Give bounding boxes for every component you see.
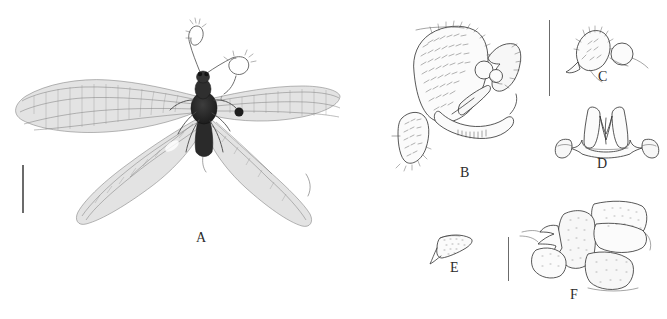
panel-c-ectoproct: C [560, 22, 660, 84]
hindwing-right [206, 120, 312, 226]
scale-bar-a [22, 165, 24, 213]
panel-f-abdomen-apex: F [518, 198, 654, 298]
panel-label-f: F [570, 288, 578, 302]
figure-plate: A [0, 0, 667, 319]
panel-c-drawing [560, 22, 660, 84]
panel-f-drawing [518, 198, 654, 298]
panel-e-gonapophysis: E [424, 226, 494, 274]
panel-b-terminalia: B [392, 14, 538, 174]
panel-d-gonarcus: D [552, 100, 664, 160]
hindwing-left [76, 118, 202, 224]
scale-bar-ef [508, 237, 509, 281]
forewing-left [16, 80, 196, 133]
panel-b-drawing [392, 14, 538, 174]
panel-label-c: C [598, 70, 608, 84]
panel-label-a: A [196, 231, 207, 245]
panel-a-habitus: A [0, 0, 340, 250]
panel-a-drawing [0, 0, 340, 250]
scale-bar-bcd [549, 20, 550, 96]
forewing-right [214, 86, 340, 121]
panel-label-b: B [460, 166, 470, 180]
panel-d-drawing [552, 100, 664, 160]
panel-label-d: D [597, 157, 608, 171]
panel-label-e: E [450, 261, 459, 275]
abdomen-tip [203, 156, 206, 172]
